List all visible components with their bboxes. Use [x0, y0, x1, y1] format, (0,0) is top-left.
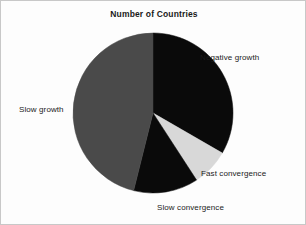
slice-label-negative-growth: Negative growth [200, 53, 259, 62]
pie-chart-figure: Number of Countries Negative growth Fast… [0, 0, 306, 225]
slice-label-fast-convergence: Fast convergence [201, 169, 266, 178]
slice-label-slow-growth: Slow growth [19, 105, 64, 114]
slice-label-slow-convergence: Slow convergence [157, 203, 224, 212]
